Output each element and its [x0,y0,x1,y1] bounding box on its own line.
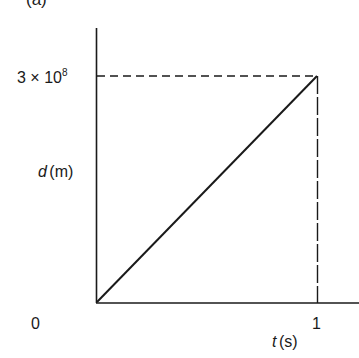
x-axis-label: t (s) [272,334,298,350]
x-tick-0-label: 0 [31,316,40,332]
distance-line [97,76,317,302]
y-tick-top-label: 3 × 108 [17,68,68,86]
x-tick-1-label: 1 [312,316,321,332]
y-axis-label: d (m) [38,164,73,180]
